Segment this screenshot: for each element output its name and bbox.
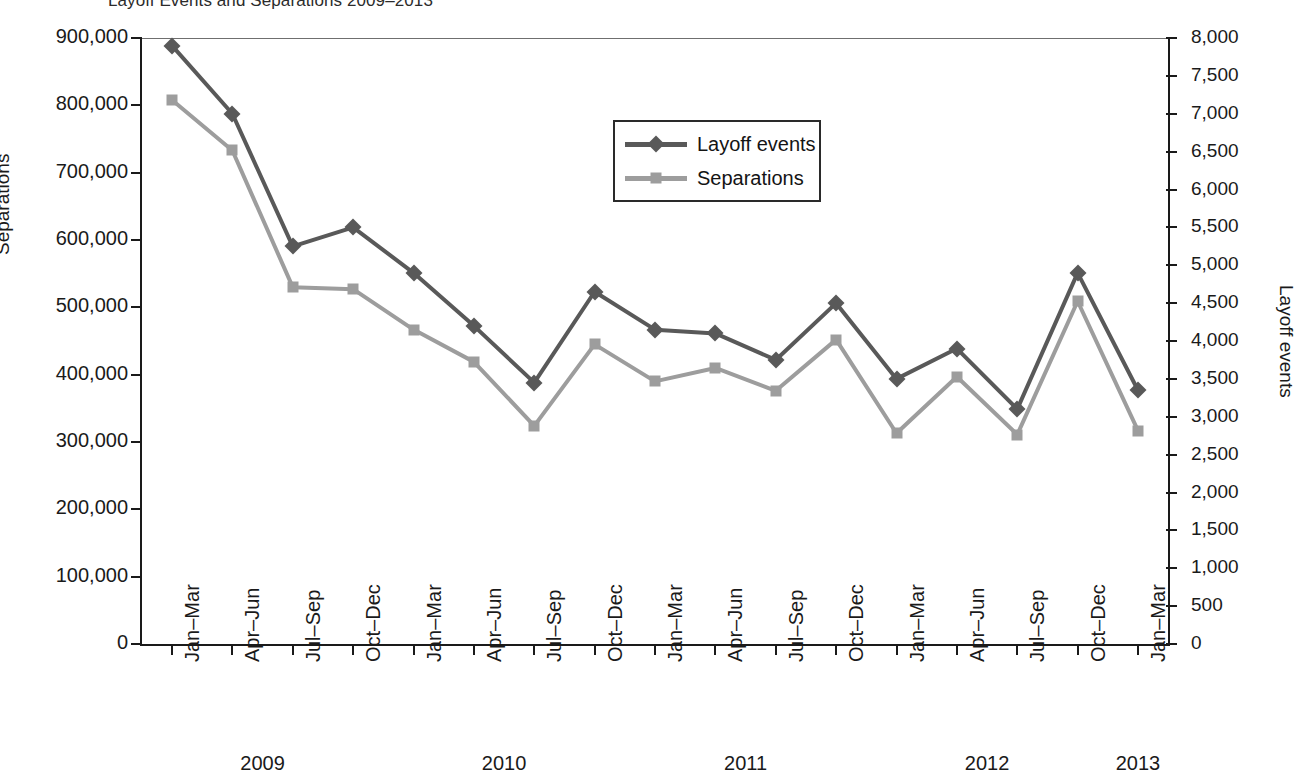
right-tick-label: 4,000 — [1191, 329, 1239, 351]
right-tick-label: 5,500 — [1191, 215, 1239, 237]
left-tick-label: 100,000 — [56, 564, 128, 587]
data-point-marker — [710, 362, 721, 373]
data-point-marker — [529, 420, 540, 431]
data-point-marker — [227, 145, 238, 156]
left-axis-title: Separations — [0, 154, 14, 255]
data-point-marker — [831, 334, 842, 345]
left-tick-label: 300,000 — [56, 429, 128, 452]
left-tick-label: 500,000 — [56, 294, 128, 317]
legend-label: Separations — [697, 167, 804, 190]
right-tick-label: 8,000 — [1191, 26, 1239, 48]
left-tick-label: 600,000 — [56, 227, 128, 250]
data-point-marker — [468, 356, 479, 367]
data-point-marker — [287, 282, 298, 293]
right-axis-title: Layoff events — [1275, 285, 1297, 398]
square-marker-icon — [651, 173, 662, 184]
right-tick-label: 500 — [1191, 594, 1223, 616]
right-tick-label: 6,500 — [1191, 140, 1239, 162]
x-axis-year-label: 2010 — [482, 752, 527, 775]
right-tick-label: 1,000 — [1191, 556, 1239, 578]
right-tick-label: 7,000 — [1191, 102, 1239, 124]
left-tick-label: 800,000 — [56, 92, 128, 115]
right-tick-label: 3,500 — [1191, 367, 1239, 389]
legend-item-layoff-events[interactable]: Layoff events — [625, 132, 816, 156]
data-point-marker — [1072, 296, 1083, 307]
plot-area: Layoff events Separations — [140, 38, 1170, 644]
data-point-marker — [1012, 429, 1023, 440]
data-point-marker — [650, 376, 661, 387]
left-tick-label: 200,000 — [56, 496, 128, 519]
data-point-marker — [167, 94, 178, 105]
right-tick-label: 7,500 — [1191, 64, 1239, 86]
left-tick-label: 700,000 — [56, 160, 128, 183]
right-tick-label: 2,000 — [1191, 481, 1239, 503]
diamond-marker-icon — [648, 136, 665, 153]
right-tick-label: 1,500 — [1191, 518, 1239, 540]
right-tick-label: 0 — [1191, 632, 1202, 654]
data-point-marker — [589, 339, 600, 350]
data-point-marker — [770, 385, 781, 396]
legend-label: Layoff events — [697, 133, 816, 156]
right-tick-label: 3,000 — [1191, 405, 1239, 427]
legend-swatch-diamond-icon — [625, 134, 687, 154]
series-line — [172, 46, 1138, 410]
chart-legend[interactable]: Layoff events Separations — [613, 120, 821, 202]
right-tick-label: 5,000 — [1191, 253, 1239, 275]
data-point-marker — [348, 284, 359, 295]
data-point-marker — [1133, 425, 1144, 436]
data-point-marker — [408, 324, 419, 335]
right-tick-label: 2,500 — [1191, 443, 1239, 465]
left-tick-label: 400,000 — [56, 362, 128, 385]
data-point-marker — [891, 428, 902, 439]
legend-item-separations[interactable]: Separations — [625, 166, 804, 190]
x-axis-year-label: 2011 — [724, 752, 767, 775]
right-tick-label: 4,500 — [1191, 291, 1239, 313]
left-tick-label: 0 — [117, 631, 128, 654]
legend-swatch-square-icon — [625, 168, 687, 188]
data-point-marker — [951, 371, 962, 382]
right-tick-label: 6,000 — [1191, 178, 1239, 200]
left-tick-label: 900,000 — [56, 25, 128, 48]
x-axis-year-label: 2012 — [965, 752, 1010, 775]
page-title: Layoff Events and Separations 2009–2013 — [108, 0, 433, 11]
x-axis-year-label: 2009 — [240, 752, 285, 775]
x-axis-year-label: 2013 — [1116, 752, 1161, 775]
